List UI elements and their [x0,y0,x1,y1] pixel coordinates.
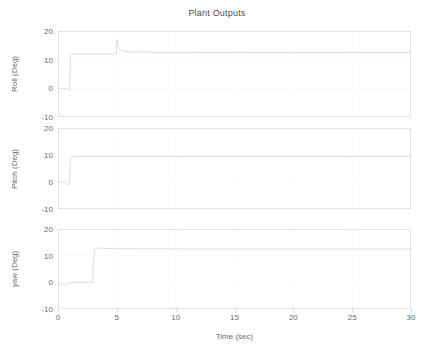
figure-canvas: Plant Outputs 20 10 0 -10 Roll (Deg) [0,0,434,357]
xtick-label-5: 5 [115,313,119,322]
xtick-label-15: 15 [230,313,239,322]
xtick-label-20: 20 [289,313,298,322]
ytick-label-pitch-0: 0 [49,178,53,187]
subplot-pitch: 20 10 0 -10 Pitch (Deg) [58,128,411,209]
xtick-label-0: 0 [56,313,60,322]
ytick-label-pitch-10: 10 [44,150,53,159]
gridlines-roll [58,31,411,117]
plot-area-roll [58,31,411,117]
ytick-label-pitch-20: 20 [44,124,53,133]
subplot-roll: 20 10 0 -10 Roll (Deg) [58,31,411,117]
xtick-label-10: 10 [171,313,180,322]
ytick-label-yaw-20: 20 [44,225,53,234]
ytick-label-roll-0: 0 [49,84,53,93]
y-axis-label-pitch: Pitch (Deg) [10,148,19,188]
ytick-label-yaw-m10: -10 [41,305,53,314]
page-title: Plant Outputs [0,8,434,18]
ytick-label-roll-10: 10 [44,55,53,64]
plot-area-pitch [58,128,411,209]
gridlines-pitch [58,128,411,209]
subplot-yaw: 20 10 0 -10 yaw (Deg) 0 5 10 15 20 25 30 [58,229,411,309]
x-axis-label: Time (sec) [58,332,411,341]
gridlines-yaw [58,229,411,309]
plot-area-yaw [58,229,411,309]
xtick-label-25: 25 [348,313,357,322]
ytick-label-roll-m10: -10 [41,113,53,122]
ytick-label-pitch-m10: -10 [41,205,53,214]
ytick-label-yaw-0: 0 [49,278,53,287]
y-axis-label-roll: Roll (Deg) [10,56,19,92]
y-axis-label-yaw: yaw (Deg) [10,251,19,287]
xtick-label-30: 30 [407,313,416,322]
ytick-label-roll-20: 20 [44,27,53,36]
ytick-label-yaw-10: 10 [44,251,53,260]
